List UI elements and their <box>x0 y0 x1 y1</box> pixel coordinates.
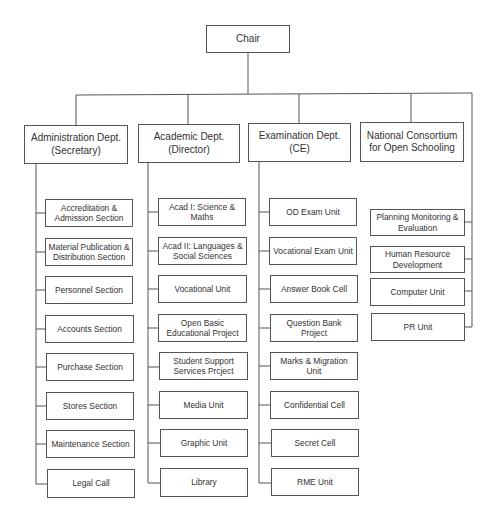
unit-label: Planning Monitoring & Evaluation <box>373 212 462 233</box>
unit-label: Student Support Services Prcject <box>162 356 245 377</box>
unit-box: Purchase Section <box>46 353 134 381</box>
unit-box: OD Exam Unit <box>269 198 357 226</box>
unit-label: Graphic Unit <box>181 438 228 449</box>
unit-label: Question Bank Project <box>273 318 355 339</box>
dept-label-line1: National Consortium <box>367 130 458 143</box>
unit-box: Accreditation & Admission Section <box>45 199 133 227</box>
unit-label: Acad I: Science & Maths <box>161 202 243 223</box>
chair-box: Chair <box>206 25 290 53</box>
unit-label: Secret Cell <box>295 438 336 449</box>
unit-label: Open Basic Educational Project <box>161 318 244 339</box>
unit-box: Confidential Cell <box>270 391 359 419</box>
chair-label: Chair <box>236 34 260 45</box>
unit-box: Student Support Services Prcject <box>159 352 248 380</box>
dept-academic: Academic Dept. (Director) <box>138 124 240 163</box>
unit-label: RME Unit <box>297 477 333 488</box>
dept-ncos: National Consortium for Open Schooling <box>360 122 464 162</box>
unit-label: Stores Section <box>63 401 117 412</box>
dept-administration: Administration Dept. (Secretary) <box>24 125 128 164</box>
unit-label: Computer Unit <box>391 287 445 298</box>
unit-box: Human Resource Development <box>370 246 465 273</box>
unit-box: Material Publication & Distribution Sect… <box>45 238 133 266</box>
unit-label: PR Unit <box>404 322 433 333</box>
dept-label-line2: (CE) <box>289 143 310 156</box>
unit-box: Answer Book Cell <box>270 275 358 303</box>
unit-label: OD Exam Unit <box>286 207 340 218</box>
unit-label: Vocational Unit <box>175 284 231 295</box>
unit-label: Marks & Migration Unit <box>273 356 355 377</box>
unit-label: Purchase Section <box>57 362 123 373</box>
unit-box: Secret Cell <box>271 429 359 457</box>
unit-label: Material Publication & Distribution Sect… <box>48 242 130 263</box>
unit-label: Acad II: Languages & Social Sciences <box>161 241 244 262</box>
unit-box: Library <box>160 468 248 497</box>
unit-box: Personnel Section <box>45 276 133 304</box>
unit-label: Vocational Exam Unit <box>273 246 353 257</box>
unit-box: Vocational Unit <box>158 275 247 303</box>
dept-examination: Examination Dept. (CE) <box>248 123 351 162</box>
unit-box: RME Unit <box>271 468 359 496</box>
unit-label: Accounts Section <box>57 324 122 335</box>
unit-label: Accreditation & Admission Section <box>48 203 130 224</box>
unit-label: Personnel Section <box>55 285 123 296</box>
dept-label-line2: (Director) <box>168 144 210 157</box>
dept-label-line2: for Open Schooling <box>369 142 455 155</box>
unit-label: Human Resource Development <box>373 249 462 270</box>
unit-label: Answer Book Cell <box>281 284 347 295</box>
unit-box: Vocational Exam Unit <box>269 237 357 265</box>
unit-box: Accounts Section <box>45 315 134 343</box>
dept-label-line1: Examination Dept. <box>259 130 341 143</box>
unit-box: Planning Monitoring & Evaluation <box>370 209 465 236</box>
dept-label-line1: Administration Dept. <box>31 132 121 145</box>
unit-box: Marks & Migration Unit <box>270 352 358 380</box>
unit-box: Question Bank Project <box>270 314 358 342</box>
unit-box: Legal Call <box>47 469 135 498</box>
unit-box: Acad II: Languages & Social Sciences <box>158 237 247 265</box>
dept-label-line1: Academic Dept. <box>154 131 225 144</box>
unit-box: Stores Section <box>46 392 134 420</box>
unit-label: Confidential Cell <box>284 400 345 411</box>
unit-box: Graphic Unit <box>160 429 248 457</box>
dept-label-line2: (Secretary) <box>51 145 100 158</box>
unit-box: Open Basic Educational Project <box>158 314 247 342</box>
unit-label: Maintenance Section <box>51 439 129 450</box>
unit-label: Legal Call <box>72 478 109 489</box>
unit-box: PR Unit <box>371 313 465 341</box>
unit-box: Maintenance Section <box>46 430 135 458</box>
unit-box: Acad I: Science & Maths <box>158 198 246 226</box>
unit-label: Library <box>191 477 217 488</box>
unit-label: Media Unit <box>183 400 223 411</box>
unit-box: Media Unit <box>159 391 248 419</box>
unit-box: Computer Unit <box>370 278 465 306</box>
